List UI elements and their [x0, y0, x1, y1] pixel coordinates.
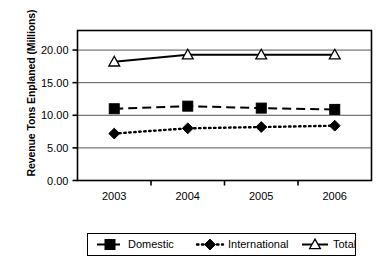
data-series-group [109, 49, 340, 139]
series-international [109, 120, 340, 139]
chart-figure: Revenue Tons Enplaned (Millions) 0.005.0… [0, 0, 386, 266]
y-axis-tick-label: 15.00 [41, 77, 69, 89]
data-point-marker [182, 123, 193, 134]
x-axis-tick-label: 2003 [102, 190, 126, 202]
y-axis-tick-label: 20.00 [41, 44, 69, 56]
legend-item-international[interactable]: International [197, 238, 289, 250]
y-axis-tick-labels-group: 0.005.0010.0015.0020.00 [41, 44, 69, 186]
legend-item-domestic[interactable]: Domestic [97, 238, 174, 250]
data-point-marker [330, 104, 340, 114]
data-point-marker [109, 128, 120, 139]
x-axis-tick-label: 2005 [249, 190, 273, 202]
data-point-marker [183, 101, 193, 111]
chart-legend: DomesticInternationalTotal [88, 234, 357, 256]
plot-frame [78, 31, 372, 181]
legend-label: Total [333, 238, 356, 250]
series-domestic [109, 101, 340, 114]
x-axis-tick-labels-group: 2003200420052006 [102, 190, 347, 202]
legend-label: International [228, 238, 289, 250]
data-point-marker [256, 103, 266, 113]
gridlines-group [78, 50, 372, 180]
x-axis-tick-label: 2004 [176, 190, 200, 202]
y-axis-tick-label: 10.00 [41, 109, 69, 121]
series-total [109, 49, 340, 66]
data-point-marker [256, 122, 267, 133]
y-axis-tick-label: 0.00 [47, 175, 68, 187]
x-axis-tick-label: 2006 [323, 190, 347, 202]
series-line [114, 126, 335, 134]
y-axis-tick-label: 5.00 [47, 142, 68, 154]
data-point-marker [109, 104, 119, 114]
series-line [114, 55, 335, 62]
data-point-marker [329, 120, 340, 131]
legend-label: Domestic [128, 238, 174, 250]
series-line [114, 106, 335, 109]
line-chart-plot: 0.005.0010.0015.0020.00 2003200420052006… [0, 0, 386, 266]
legend-marker [105, 240, 115, 250]
